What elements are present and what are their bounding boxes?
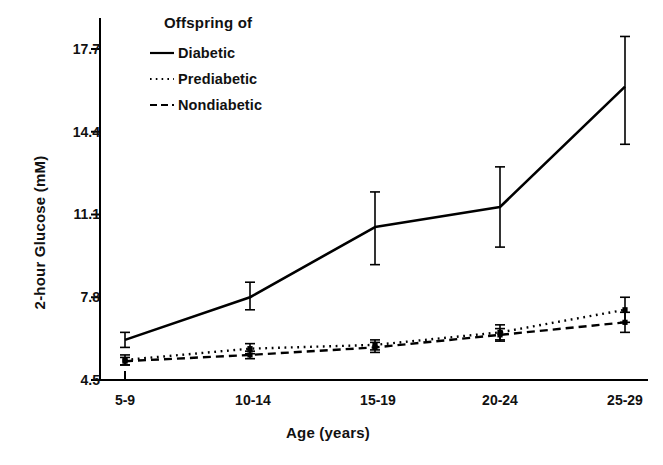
legend: Offspring of Diabetic Prediabetic xyxy=(148,14,358,118)
legend-label-diabetic: Diabetic xyxy=(178,45,235,61)
dashed-line-icon xyxy=(148,99,178,111)
x-tick-label-20-24: 20-24 xyxy=(460,392,540,408)
data-point-nondiabetic-0 xyxy=(122,359,127,364)
y-tick-label-7-8: 7.8 xyxy=(44,289,100,305)
y-tick-label-4-5: 4.5 xyxy=(44,372,100,388)
y-tick-label-14-4: 14.4 xyxy=(44,124,100,140)
x-axis-title: Age (years) xyxy=(228,424,428,441)
x-tick-label-5-9: 5-9 xyxy=(85,392,165,408)
data-point-nondiabetic-2 xyxy=(372,345,377,350)
x-tick-label-25-29: 25-29 xyxy=(585,392,663,408)
solid-line-icon xyxy=(148,47,178,59)
dotted-line-icon xyxy=(148,73,178,85)
data-point-nondiabetic-4 xyxy=(622,320,627,325)
legend-item-diabetic: Diabetic xyxy=(148,40,358,66)
legend-label-prediabetic: Prediabetic xyxy=(178,71,257,87)
y-axis-title: 2-hour Glucose (mM) xyxy=(31,98,48,368)
legend-label-nondiabetic: Nondiabetic xyxy=(178,97,262,113)
data-point-nondiabetic-3 xyxy=(497,332,502,337)
y-tick-label-11-1: 11.1 xyxy=(44,206,100,222)
legend-item-nondiabetic: Nondiabetic xyxy=(148,92,358,118)
x-tick-label-15-19: 15-19 xyxy=(338,392,418,408)
legend-title: Offspring of xyxy=(164,14,358,31)
x-tick-label-10-14: 10-14 xyxy=(213,392,293,408)
y-tick-label-17-7: 17.7 xyxy=(44,41,100,57)
glucose-age-line-chart: 17.7 14.4 11.1 7.8 4.5 5-9 10-14 15-19 2… xyxy=(0,0,663,465)
data-point-nondiabetic-1 xyxy=(247,352,252,357)
legend-item-prediabetic: Prediabetic xyxy=(148,66,358,92)
